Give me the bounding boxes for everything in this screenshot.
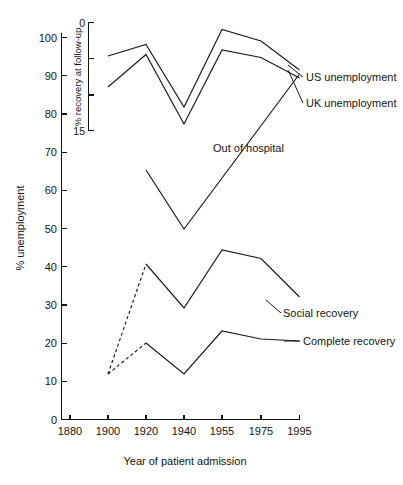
y-tick-label-100: 100: [39, 32, 57, 44]
series-label-out-of-hospital: Out of hospital: [213, 142, 284, 154]
x-tick-label-1995: 1995: [287, 425, 311, 437]
y-tick-label-30: 30: [45, 299, 57, 311]
x-axis-title: Year of patient admission: [123, 455, 246, 467]
y-tick-label-10: 10: [45, 375, 57, 387]
series-labels-group: US unemployment UK unemployment Out of h…: [213, 65, 397, 347]
series-label-complete-recovery: Complete recovery: [303, 335, 396, 347]
series-line-social-recovery-dashed: [108, 264, 146, 374]
series-line-us-unemployment: [108, 30, 300, 108]
chart-canvas: 100 90 80 70 60 50 40 30 20 10 0 % unemp…: [0, 0, 403, 485]
secondary-y-tick-label-0: 0: [79, 17, 85, 29]
secondary-y-axis-title: % recovery at follow-up: [72, 28, 83, 127]
chart-figure: 100 90 80 70 60 50 40 30 20 10 0 % unemp…: [0, 0, 403, 485]
x-tick-label-1955: 1955: [210, 425, 234, 437]
y-tick-label-0: 0: [51, 414, 57, 426]
y-tick-label-70: 70: [45, 146, 57, 158]
primary-y-axis: 100 90 80 70 60 50 40 30 20 10 0 % unemp…: [14, 32, 67, 426]
secondary-y-axis: 0 15 % recovery at follow-up: [72, 17, 94, 137]
x-axis: 1880 1900 1920 1940 1955 1975 1995 Year …: [58, 415, 312, 468]
y-tick-label-40: 40: [45, 261, 57, 273]
series-label-uk-unemployment: UK unemployment: [306, 97, 397, 109]
series-line-complete-recovery-dashed: [108, 343, 146, 374]
series-line-social-recovery: [146, 250, 300, 308]
y-tick-label-20: 20: [45, 337, 57, 349]
leader-line-social-recovery: [266, 300, 281, 313]
x-tick-label-1940: 1940: [172, 425, 196, 437]
y-tick-label-90: 90: [45, 70, 57, 82]
series-line-complete-recovery: [146, 331, 300, 374]
series-label-social-recovery: Social recovery: [283, 307, 359, 319]
y-tick-label-80: 80: [45, 108, 57, 120]
y-tick-label-60: 60: [45, 184, 57, 196]
series-group: [108, 30, 300, 375]
x-tick-label-1975: 1975: [249, 425, 273, 437]
x-tick-label-1900: 1900: [96, 425, 120, 437]
y-tick-label-50: 50: [45, 223, 57, 235]
series-label-us-unemployment: US unemployment: [306, 71, 397, 83]
y-axis-title: % unemployment: [14, 186, 26, 271]
x-tick-label-1920: 1920: [134, 425, 158, 437]
x-tick-label-1880: 1880: [58, 425, 82, 437]
